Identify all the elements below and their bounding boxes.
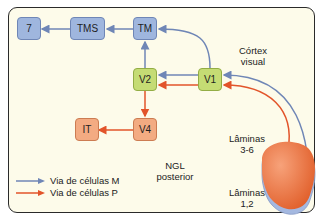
node-v2: V2: [133, 68, 157, 91]
laminas12-line2: 1,2: [222, 198, 272, 209]
legend-p-pathway: Via de células P: [16, 187, 118, 198]
legend-m-pathway: Via de células M: [16, 175, 120, 186]
node-v4: V4: [133, 118, 157, 141]
node-label: V2: [139, 74, 151, 85]
node-label: 7: [26, 23, 32, 34]
laminas36-line2: 3-6: [222, 144, 272, 155]
red-arrow-icon: [16, 189, 46, 197]
node-7: 7: [17, 17, 41, 40]
blue-arrow-icon: [16, 177, 46, 185]
cortex-line2: visual: [228, 56, 278, 67]
node-label: V4: [139, 124, 151, 135]
node-v1: V1: [198, 68, 222, 91]
node-tm: TM: [133, 17, 157, 40]
laminas-1-2-label: Lâminas 1,2: [222, 187, 272, 209]
cortex-visual-label: Córtex visual: [228, 45, 278, 67]
node-label: V1: [204, 74, 216, 85]
node-tms: TMS: [70, 17, 105, 40]
laminas36-line1: Lâminas: [222, 133, 272, 144]
node-label: IT: [83, 124, 92, 135]
node-label: TM: [138, 23, 152, 34]
legend-label: Via de células M: [50, 175, 120, 186]
ngl-line2: posterior: [150, 171, 200, 182]
node-it: IT: [75, 118, 99, 141]
legend-label: Via de células P: [50, 187, 118, 198]
cortex-line1: Córtex: [228, 45, 278, 56]
laminas12-line1: Lâminas: [222, 187, 272, 198]
laminas-3-6-label: Lâminas 3-6: [222, 133, 272, 155]
ngl-posterior-label: NGL posterior: [150, 160, 200, 182]
ngl-line1: NGL: [150, 160, 200, 171]
node-label: TMS: [77, 23, 98, 34]
